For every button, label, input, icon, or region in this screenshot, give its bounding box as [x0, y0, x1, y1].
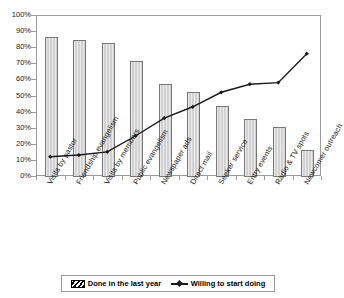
x-tick-mark: [122, 176, 123, 180]
x-tick-mark: [179, 176, 180, 180]
chart-legend: Done in the last year Willing to start d…: [61, 275, 275, 292]
x-tick-mark: [321, 176, 322, 180]
line-marker: [48, 155, 52, 159]
y-tick-label: 70%: [16, 59, 31, 67]
hatched-bar-swatch-icon: [71, 280, 85, 288]
y-tick-label: 60%: [16, 75, 31, 83]
legend-label: Willing to start doing: [191, 279, 266, 288]
x-tick-mark: [65, 176, 66, 180]
legend-item-willing-to-start-doing: Willing to start doing: [171, 279, 266, 288]
y-tick-label: 80%: [16, 43, 31, 51]
y-tick-label: 10%: [16, 156, 31, 164]
x-tick-mark: [36, 176, 37, 180]
x-axis: Visits by pastorFriendship evangelismVis…: [0, 176, 335, 264]
line-marker: [248, 82, 252, 86]
legend-item-done-in-the-last-year: Done in the last year: [71, 279, 161, 288]
y-tick-label: 100%: [12, 11, 31, 19]
y-tick-label: 40%: [16, 108, 31, 116]
line-marker-swatch-icon: [171, 280, 188, 288]
x-tick-mark: [264, 176, 265, 180]
y-tick-label: 90%: [16, 27, 31, 35]
x-tick-mark: [150, 176, 151, 180]
x-tick-mark: [236, 176, 237, 180]
legend-label: Done in the last year: [88, 279, 161, 288]
y-tick-label: 30%: [16, 124, 31, 132]
y-tick-label: 50%: [16, 92, 31, 100]
x-tick-mark: [293, 176, 294, 180]
y-tick-label: 20%: [16, 140, 31, 148]
x-tick-mark: [93, 176, 94, 180]
line-path: [50, 54, 307, 157]
x-tick-mark: [207, 176, 208, 180]
line-marker: [77, 153, 81, 157]
